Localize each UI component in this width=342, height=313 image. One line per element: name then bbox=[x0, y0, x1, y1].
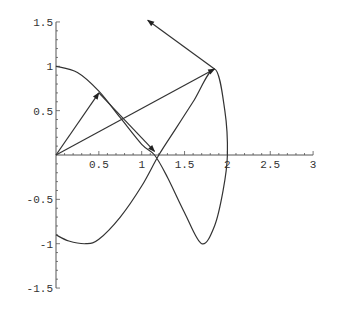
x-tick-label: 1.5 bbox=[175, 159, 195, 171]
axes: 0.511.522.531.510.5-0.5-1-1.5 bbox=[27, 17, 317, 295]
vector-arrow bbox=[99, 93, 155, 152]
x-tick-label: 0.5 bbox=[89, 159, 109, 171]
y-tick-label: 1 bbox=[46, 61, 53, 73]
vector-arrow bbox=[148, 20, 215, 69]
x-tick-label: 1 bbox=[138, 159, 145, 171]
y-tick-label: -1.5 bbox=[27, 283, 53, 295]
y-tick-label: -0.5 bbox=[27, 194, 53, 206]
plot-area: 0.511.522.531.510.5-0.5-1-1.5 bbox=[0, 0, 342, 313]
x-tick-label: 3 bbox=[310, 159, 317, 171]
y-tick-label: -1 bbox=[40, 239, 54, 251]
y-tick-label: 0.5 bbox=[33, 106, 53, 118]
vector-arrow bbox=[56, 69, 215, 155]
y-tick-label: 1.5 bbox=[33, 17, 53, 29]
x-tick-label: 2.5 bbox=[260, 159, 280, 171]
chart-container: 0.511.522.531.510.5-0.5-1-1.5 bbox=[0, 0, 342, 313]
arrows bbox=[56, 20, 215, 155]
vector-arrow bbox=[56, 93, 99, 155]
